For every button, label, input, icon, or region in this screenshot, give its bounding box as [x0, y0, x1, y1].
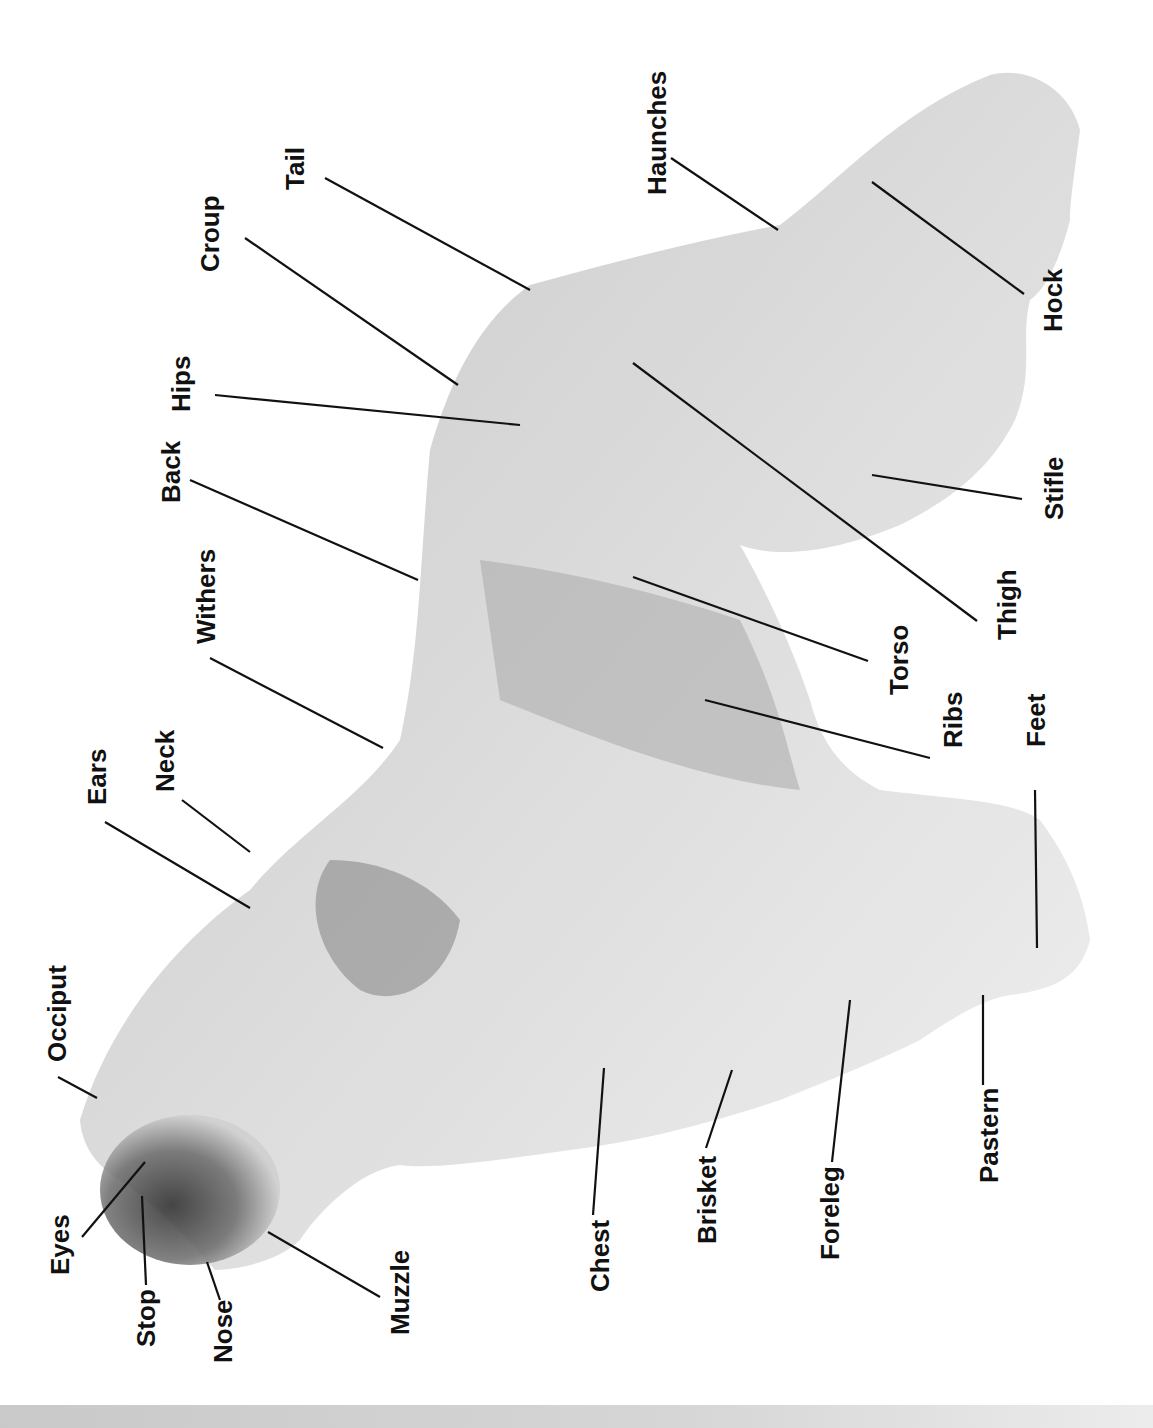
foreleg-line [832, 1000, 850, 1162]
label-ears: Ears [84, 749, 110, 805]
stifle-line [872, 475, 1022, 499]
label-eyes: Eyes [47, 1214, 73, 1275]
label-back: Back [158, 441, 184, 503]
label-feet: Feet [1023, 694, 1049, 747]
occiput-line [58, 1077, 97, 1098]
tail-line [325, 178, 530, 290]
haunches-line [671, 158, 778, 230]
back-line [190, 480, 418, 580]
label-nose: Nose [210, 1299, 236, 1363]
eyes-line [82, 1162, 145, 1237]
hips-line [215, 395, 520, 425]
thigh-line [633, 363, 977, 621]
brisket-line [706, 1070, 732, 1148]
croup-line [245, 238, 458, 385]
label-ribs: Ribs [940, 692, 966, 748]
dog-anatomy-diagram: Tail Croup Hips Back Withers Neck Ears O… [0, 0, 1153, 1428]
label-occiput: Occiput [44, 965, 70, 1062]
bottom-bar [0, 1405, 1153, 1428]
label-pastern: Pastern [976, 1088, 1002, 1183]
label-croup: Croup [197, 195, 223, 272]
label-tail: Tail [282, 147, 308, 190]
label-torso: Torso [886, 625, 912, 695]
torso-line [633, 577, 868, 661]
withers-line [210, 658, 383, 748]
nose-line [207, 1262, 220, 1300]
label-neck: Neck [152, 730, 178, 792]
label-hock: Hock [1040, 268, 1066, 332]
label-muzzle: Muzzle [387, 1250, 413, 1335]
hock-line [872, 182, 1024, 294]
feet-line [1035, 790, 1037, 948]
label-stop: Stop [133, 1289, 159, 1347]
label-withers: Withers [193, 549, 219, 644]
label-stifle: Stifle [1041, 456, 1067, 520]
label-brisket: Brisket [694, 1156, 720, 1244]
leader-lines [0, 0, 1153, 1428]
label-hips: Hips [168, 356, 194, 412]
label-haunches: Haunches [644, 71, 670, 195]
ribs-line [705, 700, 930, 758]
stop-line [142, 1196, 146, 1285]
chest-line [593, 1068, 604, 1215]
label-thigh: Thigh [994, 569, 1020, 640]
neck-line [182, 800, 250, 852]
muzzle-line [268, 1232, 380, 1297]
label-chest: Chest [587, 1220, 613, 1292]
label-foreleg: Foreleg [817, 1166, 843, 1260]
